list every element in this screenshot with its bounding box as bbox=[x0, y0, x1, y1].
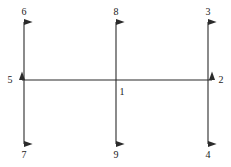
node-label-3: 3 bbox=[206, 7, 211, 17]
node-label-7: 7 bbox=[22, 150, 27, 160]
node-label-4: 4 bbox=[206, 150, 211, 160]
node-label-5: 5 bbox=[8, 75, 13, 85]
node-label-8: 8 bbox=[114, 7, 119, 17]
node-label-9: 9 bbox=[114, 150, 119, 160]
arrow-diagram-graphic bbox=[0, 0, 231, 167]
node-label-6: 6 bbox=[22, 7, 27, 17]
node-label-2: 2 bbox=[219, 75, 224, 85]
diagram-canvas: 6 8 3 5 1 2 7 9 4 bbox=[0, 0, 231, 167]
node-label-1: 1 bbox=[120, 87, 125, 97]
